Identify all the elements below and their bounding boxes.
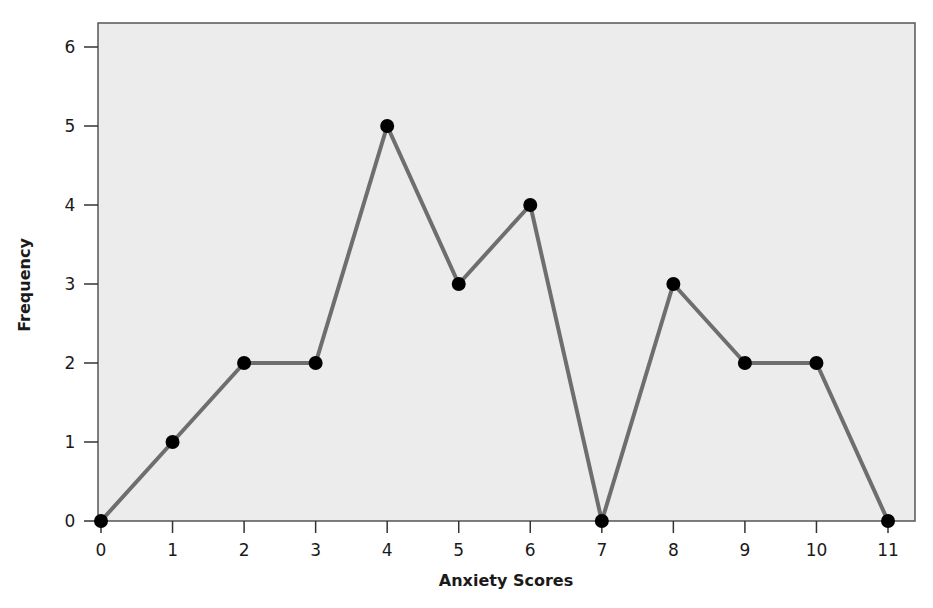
x-tick-label: 11 <box>877 540 899 560</box>
x-tick-label: 7 <box>596 540 607 560</box>
data-point-marker <box>809 356 823 370</box>
x-axis-title: Anxiety Scores <box>439 571 573 590</box>
x-tick-label: 1 <box>167 540 178 560</box>
data-point-marker <box>166 435 180 449</box>
x-tick-label: 6 <box>525 540 536 560</box>
y-tick-label: 6 <box>65 37 76 57</box>
x-tick-label: 0 <box>96 540 107 560</box>
y-tick-label: 1 <box>65 432 76 452</box>
data-point-marker <box>738 356 752 370</box>
data-point-marker <box>523 198 537 212</box>
data-point-marker <box>881 514 895 528</box>
data-point-marker <box>237 356 251 370</box>
frequency-polygon-chart: 0123456 01234567891011 Anxiety Scores Fr… <box>0 0 933 608</box>
y-tick-label: 5 <box>65 116 76 136</box>
x-tick-label: 8 <box>668 540 679 560</box>
y-axis: 0123456 <box>65 37 98 531</box>
x-tick-label: 5 <box>453 540 464 560</box>
data-point-marker <box>666 277 680 291</box>
y-tick-label: 3 <box>65 274 76 294</box>
x-tick-label: 10 <box>806 540 828 560</box>
data-point-marker <box>452 277 466 291</box>
data-point-marker <box>380 119 394 133</box>
data-point-marker <box>309 356 323 370</box>
y-tick-label: 0 <box>65 511 76 531</box>
data-point-marker <box>94 514 108 528</box>
x-tick-label: 3 <box>310 540 321 560</box>
data-point-marker <box>595 514 609 528</box>
x-axis: 01234567891011 <box>96 521 899 560</box>
x-tick-label: 4 <box>382 540 393 560</box>
x-tick-label: 9 <box>739 540 750 560</box>
y-axis-title: Frequency <box>15 238 34 332</box>
y-tick-label: 2 <box>65 353 76 373</box>
plot-area <box>98 23 915 521</box>
y-tick-label: 4 <box>65 195 76 215</box>
x-tick-label: 2 <box>239 540 250 560</box>
